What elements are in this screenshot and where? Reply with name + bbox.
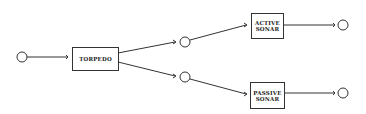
active-output-node-circle: [338, 20, 348, 30]
upper-mid-node-circle: [180, 37, 190, 47]
active-sonar-label-line2: SONAR: [256, 26, 280, 32]
passive-sonar-label-line2: SONAR: [256, 96, 280, 102]
edge-mid-active: [190, 25, 246, 40]
torpedo-label: TORPEDO: [79, 56, 112, 62]
edge-torpedo-lower: [118, 62, 175, 76]
torpedo-box: TORPEDO: [72, 47, 119, 71]
diagram-edges: [0, 0, 366, 114]
edge-torpedo-upper: [118, 42, 175, 53]
edge-mid-passive: [190, 79, 246, 94]
active-sonar-box: ACTIVE SONAR: [251, 13, 284, 39]
input-node-circle: [17, 52, 27, 62]
lower-mid-node-circle: [180, 72, 190, 82]
diagram-canvas: TORPEDO ACTIVE SONAR PASSIVE SONAR: [0, 0, 366, 114]
passive-output-node-circle: [338, 88, 348, 98]
passive-sonar-box: PASSIVE SONAR: [250, 82, 285, 109]
